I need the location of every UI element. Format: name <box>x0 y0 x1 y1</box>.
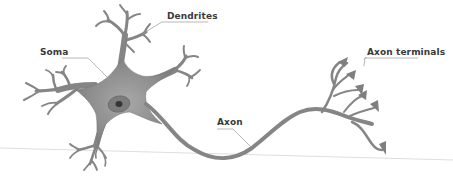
terminal-boutons <box>338 57 386 155</box>
soma-leader <box>62 58 112 82</box>
label-axon-terminals: Axon terminals <box>367 47 445 57</box>
neuron-illustration <box>0 0 453 178</box>
label-dendrites: Dendrites <box>167 11 218 21</box>
neuron-diagram: Dendrites Soma Axon Axon terminals <box>0 0 453 178</box>
axon <box>146 104 372 158</box>
axon-terminals-leader <box>364 57 418 60</box>
axon-leader <box>217 129 252 148</box>
nucleolus <box>116 101 123 107</box>
dendrites-leader <box>142 22 208 34</box>
label-axon: Axon <box>217 117 243 127</box>
label-soma: Soma <box>40 47 69 57</box>
